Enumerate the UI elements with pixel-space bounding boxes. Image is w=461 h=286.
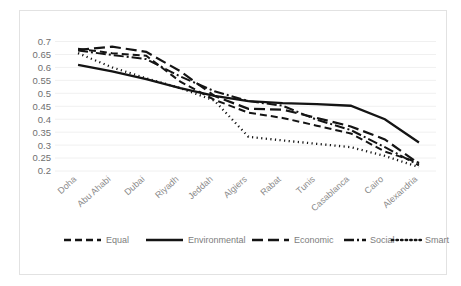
series-line-economic [78,47,419,164]
y-axis-tick-label: 0.25 [33,152,52,163]
line-chart: 0.70.650.60.550.50.450.40.350.30.250.2 D… [0,0,461,286]
y-axis-tick-label: 0.7 [38,36,51,47]
y-axis-tick-label: 0.65 [33,49,52,60]
x-axis-category-label: Riyadh [153,174,181,200]
series-line-equal [78,49,419,163]
x-axis-category-label: Alexandria [381,174,419,210]
x-axis-category-label: Tunis [294,174,317,196]
chart-legend: EqualEnvironmentalEconomicSocialSmart [64,235,450,245]
legend-label-environmental: Environmental [188,235,246,245]
legend-label-smart: Smart [425,235,450,245]
x-axis-category-label: Rabat [258,174,283,198]
y-axis-tick-label: 0.4 [38,114,51,125]
y-axis-tick-label: 0.35 [33,127,52,138]
x-axis-category-label: Jeddah [186,174,215,201]
series-line-smart [78,53,419,167]
series-line-environmental [78,65,419,143]
legend-label-equal: Equal [106,235,129,245]
x-axis-category-label: Abu Ahabi [75,174,112,209]
y-axis-tick-label: 0.2 [38,165,51,176]
gridlines [55,42,436,172]
y-axis-tick-label: 0.55 [33,75,52,86]
x-axis-category-label: Dubai [122,174,146,197]
y-axis-tick-label: 0.5 [38,88,51,99]
x-axis-category-labels: DohaAbu AhabiDubaiRiyadhJeddahAlgiersRab… [56,174,420,214]
y-axis-tick-label: 0.45 [33,101,52,112]
y-axis-tick-labels: 0.70.650.60.550.50.450.40.350.30.250.2 [33,36,52,177]
x-axis-category-label: Cairo [363,174,386,196]
x-axis-category-label: Doha [56,174,79,196]
chart-canvas: 0.70.650.60.550.50.450.40.350.30.250.2 D… [0,0,461,286]
x-axis-category-label: Algiers [222,174,250,200]
y-axis-tick-label: 0.6 [38,62,51,73]
legend-label-economic: Economic [294,235,334,245]
y-axis-tick-label: 0.3 [38,140,51,151]
data-series-group [78,47,419,167]
